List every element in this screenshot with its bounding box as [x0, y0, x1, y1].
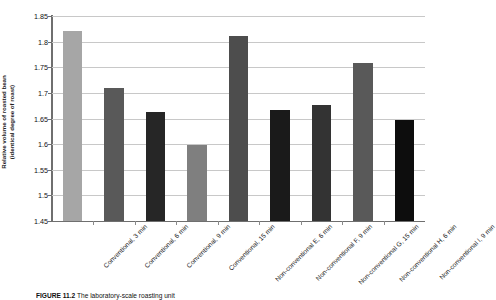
y-tick-mark	[48, 67, 52, 68]
bar	[270, 110, 289, 221]
y-axis-tick-labels: 1.851.81.751.71.651.61.551.51.45	[22, 0, 48, 300]
x-category-label: Conventional, 6 min	[143, 223, 189, 269]
y-tick-mark	[48, 119, 52, 120]
figure-caption-number: FIGURE 11.2	[36, 292, 75, 299]
y-tick-label: 1.6	[24, 140, 48, 149]
bar	[312, 105, 331, 221]
y-tick-label: 1.75	[24, 63, 48, 72]
y-tick-label: 1.55	[24, 165, 48, 174]
x-category-label: Conventional, 15 min	[227, 223, 276, 272]
y-tick-label: 1.45	[24, 217, 48, 226]
y-tick-mark	[48, 170, 52, 171]
figure-caption-text: The laboratory-scale roasting unit	[77, 292, 175, 299]
x-category-label: Conventional, 9 min	[185, 223, 231, 269]
y-tick-label: 1.5	[24, 191, 48, 200]
bar	[395, 120, 414, 221]
y-tick-label: 1.7	[24, 88, 48, 97]
x-axis-category-labels: Conventional, 3 minConventional, 6 minCo…	[52, 223, 425, 295]
bar	[229, 36, 248, 221]
y-tick-mark	[48, 16, 52, 17]
y-tick-mark	[48, 93, 52, 94]
bar	[353, 63, 372, 221]
y-tick-label: 1.85	[24, 12, 48, 21]
bar	[104, 88, 123, 221]
y-axis-title-line1: Relative volume of roasted bean	[0, 75, 7, 168]
y-tick-mark	[48, 144, 52, 145]
y-tick-mark	[48, 42, 52, 43]
y-tick-label: 1.65	[24, 114, 48, 123]
y-axis-title-line2: (identical degree of roast)	[8, 22, 16, 222]
figure-caption: FIGURE 11.2 The laboratory-scale roastin…	[36, 292, 431, 300]
bar-series	[52, 16, 425, 221]
y-tick-label: 1.8	[24, 37, 48, 46]
plot-area	[52, 16, 425, 221]
x-category-label: Conventional, 3 min	[102, 223, 148, 269]
y-tick-mark	[48, 221, 52, 222]
bar	[63, 31, 82, 221]
bar	[146, 112, 165, 221]
y-tick-mark	[48, 195, 52, 196]
bar	[187, 145, 206, 221]
